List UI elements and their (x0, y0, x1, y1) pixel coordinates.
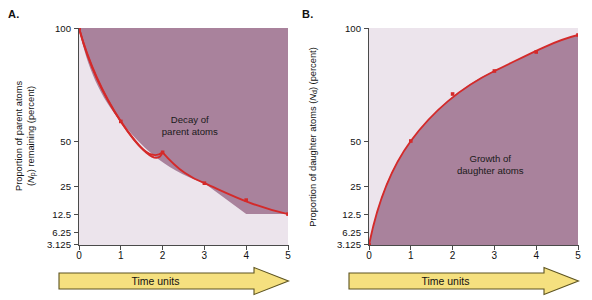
panel-b-tickmark (364, 28, 369, 29)
radioactive-decay-figure: A. Proportion of parent atoms (Np) remai… (0, 0, 592, 300)
panel-a-xtick-label-5: 5 (285, 251, 291, 261)
panel-a-xtick-label-3: 3 (202, 251, 208, 261)
panel-a-xtick-label-4: 4 (243, 251, 249, 261)
panel-a-tickmark (74, 232, 79, 233)
panel-b-xtick-label-3: 3 (492, 251, 498, 261)
panel-a: A. Proportion of parent atoms (Np) remai… (0, 0, 296, 300)
panel-a-ytick-label-3-125: 3.125 (47, 239, 71, 248)
panel-b-xtick-label-4: 4 (533, 251, 539, 261)
panel-a-label: A. (8, 8, 19, 20)
panel-a-plot-area: Decay of parent atoms 100 50 25 12.5 6.2… (78, 28, 288, 246)
panel-a-tickmark (74, 214, 79, 215)
panel-a-xtick-label-2: 2 (160, 251, 166, 261)
panel-b-y-axis-title: Proportion of daughter atoms (Nd) (perce… (308, 24, 321, 250)
panel-b-xtick-label-0: 0 (366, 251, 372, 261)
panel-b-annotation-line2: daughter atoms (457, 165, 524, 177)
panel-a-ytick-label-25: 25 (60, 181, 71, 190)
panel-a-annotation: Decay of parent atoms (162, 114, 218, 138)
panel-b-ytick-label-50: 50 (350, 136, 361, 145)
panel-a-y-axis-title: Proportion of parent atoms (Np) remainin… (14, 28, 38, 244)
panel-divider (296, 0, 297, 300)
panel-b-tickmark (364, 214, 369, 215)
panel-b-label: B. (302, 8, 313, 20)
panel-b-ytick-label-25: 25 (350, 181, 361, 190)
panel-b-ytick-label-12-5: 12.5 (342, 209, 361, 218)
panel-b-tickmark (364, 232, 369, 233)
panel-a-tickmark (74, 141, 79, 142)
panel-a-y-axis-title-line2: (Np) remaining (percent) (26, 28, 39, 244)
panel-b: B. Proportion of daughter atoms (Nd) (pe… (296, 0, 592, 300)
panel-a-time-units-label: Time units (58, 266, 253, 296)
panel-b-tickmark (364, 186, 369, 187)
panel-a-tickmark (74, 186, 79, 187)
panel-b-xtick-label-5: 5 (575, 251, 581, 261)
panel-a-annotation-line2: parent atoms (162, 126, 218, 138)
panel-a-tickmark (74, 28, 79, 29)
panel-b-tickmark (364, 141, 369, 142)
panel-b-plot-area: Growth of daughter atoms 100 50 25 12.5 … (368, 28, 578, 246)
panel-a-xtick-label-0: 0 (76, 251, 82, 261)
panel-b-curve-svg (369, 28, 578, 245)
panel-b-ytick-label-3-125: 3.125 (337, 239, 361, 248)
panel-a-ytick-label-50: 50 (60, 136, 71, 145)
panel-a-ytick-label-12-5: 12.5 (52, 209, 71, 218)
panel-b-xtick-label-1: 1 (408, 251, 414, 261)
panel-b-annotation: Growth of daughter atoms (457, 153, 524, 177)
panel-b-ytick-label-100: 100 (345, 23, 361, 32)
panel-b-growth-fill (369, 35, 578, 245)
panel-a-ytick-label-100: 100 (55, 23, 71, 32)
panel-b-annotation-line1: Growth of (457, 153, 524, 165)
panel-a-ytick-label-6-25: 6.25 (52, 227, 71, 236)
panel-b-ytick-label-6-25: 6.25 (342, 227, 361, 236)
panel-a-time-axis-arrow: Time units (58, 266, 290, 296)
panel-a-y-axis-title-line1: Proportion of parent atoms (14, 28, 26, 244)
panel-b-xtick-label-2: 2 (450, 251, 456, 261)
panel-b-time-axis-arrow: Time units (348, 266, 580, 296)
panel-a-annotation-line1: Decay of (162, 114, 218, 126)
panel-b-time-units-label: Time units (348, 266, 543, 296)
panel-b-y-axis-title-line1: Proportion of daughter atoms (Nd) (perce… (308, 24, 321, 250)
panel-a-xtick-label-1: 1 (118, 251, 124, 261)
